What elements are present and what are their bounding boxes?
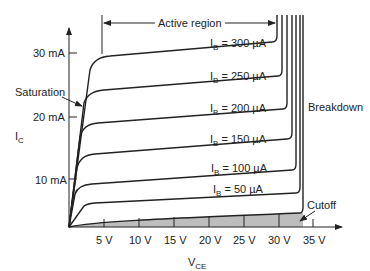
cutoff-label: Cutoff — [307, 199, 337, 211]
label-ib-250: IB = 250 µA — [210, 70, 267, 85]
y-ticks — [69, 53, 77, 179]
y-tick-10ma: 10 mA — [35, 174, 67, 186]
label-ib-150: IB = 150 µA — [210, 133, 267, 148]
x-tick-20v: 20 V — [199, 234, 222, 246]
saturation-label: Saturation — [15, 86, 65, 98]
x-tick-35v: 35 V — [303, 234, 326, 246]
y-axis-label: IC — [15, 130, 24, 145]
curve-cutoff — [69, 15, 303, 227]
characteristic-diagram: 30 mA 20 mA 10 mA 5 V 10 V 15 V 20 V 25 … — [0, 0, 370, 271]
x-tick-30v: 30 V — [268, 234, 291, 246]
active-region-label: Active region — [158, 17, 222, 29]
label-ib-200: IB = 200 µA — [210, 102, 267, 117]
x-tick-25v: 25 V — [233, 234, 256, 246]
x-tick-10v: 10 V — [129, 234, 152, 246]
saturation-pointer — [62, 97, 82, 106]
breakdown-label: Breakdown — [308, 101, 363, 113]
x-axis-label: VCE — [188, 256, 206, 271]
y-tick-30ma: 30 mA — [33, 47, 65, 59]
label-ib-300: IB = 300 µA — [210, 37, 267, 52]
ib-curves — [69, 15, 303, 227]
x-tick-15v: 15 V — [164, 234, 187, 246]
y-tick-20ma: 20 mA — [33, 111, 65, 123]
x-tick-5v: 5 V — [96, 234, 113, 246]
